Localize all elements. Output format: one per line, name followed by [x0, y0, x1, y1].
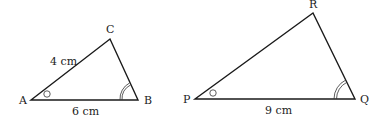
angle-q-inner-arc [336, 82, 346, 99]
vertex-label-b: B [144, 94, 152, 107]
angle-p-circle-mark [210, 90, 216, 96]
side-pq-label: 9 cm [265, 104, 293, 117]
vertex-label-c: C [106, 23, 114, 36]
angle-q-outer-arc [334, 80, 346, 99]
angle-a-circle-mark [44, 91, 50, 97]
triangle-pqr: P Q R 9 cm [183, 0, 369, 117]
vertex-label-p: P [183, 93, 191, 106]
vertex-label-a: A [18, 94, 28, 107]
triangle-abc: A B C 4 cm 6 cm [18, 23, 152, 118]
similar-triangles-diagram: A B C 4 cm 6 cm P Q R 9 cm [0, 0, 386, 123]
vertex-label-q: Q [360, 93, 369, 106]
side-ab-label: 6 cm [72, 105, 100, 118]
angle-b-inner-arc [122, 85, 131, 100]
vertex-label-r: R [309, 0, 318, 11]
triangle-pqr-outline [195, 13, 355, 99]
angle-b-outer-arc [120, 83, 130, 100]
side-ac-label: 4 cm [50, 55, 78, 68]
